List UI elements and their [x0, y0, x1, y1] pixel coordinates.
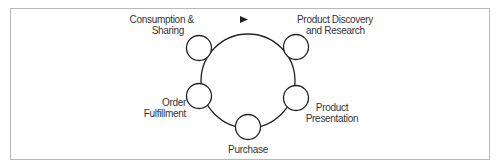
node-consumption — [187, 36, 212, 61]
label-line: Fulfillment — [128, 108, 186, 119]
node-purchase — [236, 115, 261, 140]
label-line: Sharing — [118, 25, 194, 36]
label-fulfillment: Order Fulfillment — [128, 97, 186, 119]
label-purchase: Purchase — [218, 144, 278, 155]
label-presentation: Product Presentation — [296, 102, 368, 124]
label-discovery: Product Discovery and Research — [297, 14, 397, 36]
label-line: Consumption & — [118, 14, 194, 25]
node-fulfillment — [187, 84, 212, 109]
label-line: and Research — [297, 25, 397, 36]
label-line: Product Discovery — [297, 14, 397, 25]
node-discovery — [284, 35, 309, 60]
label-line: Order — [128, 97, 186, 108]
cycle-diagram — [0, 0, 501, 167]
label-line: Product — [296, 102, 368, 113]
arrow-head-icon — [240, 16, 248, 23]
label-consumption: Consumption & Sharing — [118, 14, 194, 36]
label-line: Purchase — [218, 144, 278, 155]
label-line: Presentation — [296, 113, 368, 124]
